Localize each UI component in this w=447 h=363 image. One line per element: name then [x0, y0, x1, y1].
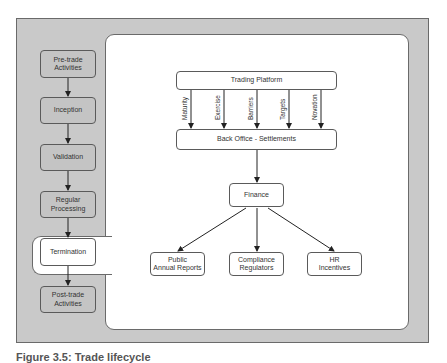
figure-caption: Figure 3.5: Trade lifecycle	[16, 351, 151, 363]
output-label: Compliance Regulators	[238, 256, 275, 273]
stage-label: Pre-trade Activities	[53, 56, 82, 73]
stage-label: Validation	[53, 153, 83, 162]
output-label: HR Incentives	[319, 256, 351, 273]
trading-platform-box[interactable]: Trading Platform	[176, 71, 337, 90]
event-label-barriers: Barriers	[247, 97, 254, 120]
stage-termination[interactable]: Termination	[40, 238, 96, 266]
output-label: Public Annual Reports	[153, 256, 201, 273]
stage-validation[interactable]: Validation	[40, 144, 96, 171]
back-office-label: Back Office - Settlements	[217, 135, 296, 144]
event-label-exercise: Exercise	[214, 95, 221, 120]
stage-pre-trade[interactable]: Pre-trade Activities	[40, 50, 96, 78]
finance-box[interactable]: Finance	[229, 183, 284, 207]
stage-inception[interactable]: Inception	[40, 97, 96, 124]
output-hr-incentives[interactable]: HR Incentives	[307, 252, 362, 276]
stage-label: Regular Processing	[51, 196, 86, 213]
output-public-annual-reports[interactable]: Public Annual Reports	[150, 252, 205, 276]
stage-label: Post-trade Activities	[52, 291, 84, 308]
finance-label: Finance	[244, 191, 269, 200]
stage-post-trade[interactable]: Post-trade Activities	[40, 286, 96, 313]
stage-regular-processing[interactable]: Regular Processing	[40, 191, 96, 218]
back-office-box[interactable]: Back Office - Settlements	[176, 129, 337, 150]
output-compliance-regulators[interactable]: Compliance Regulators	[229, 252, 284, 276]
trading-platform-label: Trading Platform	[231, 76, 282, 85]
event-label-maturity: Maturity	[181, 97, 188, 120]
stage-label: Termination	[50, 248, 86, 257]
event-label-targets: Targets	[279, 99, 286, 120]
event-label-novation: Novation	[311, 94, 318, 120]
stage-label: Inception	[54, 106, 82, 115]
